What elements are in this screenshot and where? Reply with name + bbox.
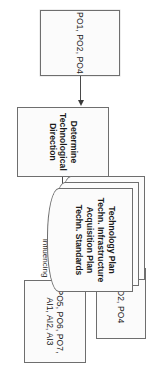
node-documents-label-line4: Techn. Standards (74, 205, 84, 276)
node-process-label-line2: Technological Direction (48, 113, 68, 171)
node-documents-label-line3: Acquisition Plan (86, 207, 96, 274)
node-outputs-secondary-label-line1: PO5, PO6, PO7, (55, 289, 65, 353)
node-process-label-line1: Determine (69, 121, 79, 163)
node-documents-label-line1: Technology Plan (108, 206, 118, 273)
node-process-label: Determine Technological Direction (47, 108, 78, 176)
node-documents-stack[interactable]: Technology Plan Techn. Infrastructure Ac… (47, 176, 145, 292)
node-outputs-secondary-label-line2: AI1, AI2, AI3 (45, 297, 55, 345)
node-documents-label-line2: Techn. Infrastructure (97, 198, 107, 282)
node-inputs-label: PO1, PO2, PO4 (75, 12, 85, 74)
node-inputs[interactable]: PO1, PO2, PO4 (40, 10, 120, 76)
node-process-determine-technological-direction[interactable]: Determine Technological Direction (17, 107, 109, 177)
node-outputs-secondary[interactable]: PO5, PO6, PO7, AI1, AI2, AI3 (24, 280, 86, 363)
process-flow-diagram: PO1, PO2, PO4 Determine Technological Di… (0, 0, 158, 377)
arrowhead-icon-inputs-to-process (79, 100, 85, 106)
document-sheet-front-icon: Technology Plan Techn. Infrastructure Ac… (59, 188, 133, 292)
diagram-frame: PO1, PO2, PO4 Determine Technological Di… (0, 0, 158, 377)
node-documents-label: Technology Plan Techn. Infrastructure Ac… (73, 189, 117, 291)
edge-inputs-to-process (80, 76, 81, 101)
node-outputs-secondary-label: PO5, PO6, PO7, AI1, AI2, AI3 (45, 289, 66, 353)
